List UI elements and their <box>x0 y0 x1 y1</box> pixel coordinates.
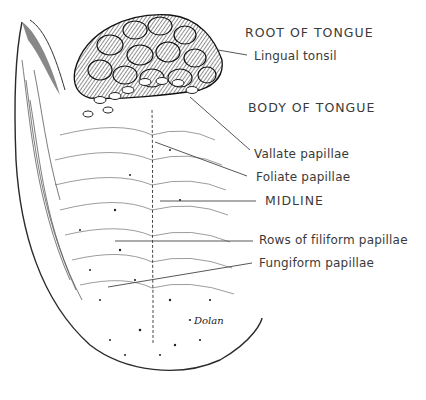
label-vallate-papillae: Vallate papillae <box>254 147 349 161</box>
label-foliate-papillae: Foliate papillae <box>256 170 350 184</box>
tongue-illustration: Dolan <box>0 0 426 400</box>
label-fungiform-papillae: Fungiform papillae <box>259 256 374 270</box>
label-midline: MIDLINE <box>265 193 324 208</box>
label-body-of-tongue: BODY OF TONGUE <box>248 100 375 115</box>
midline-groove <box>152 110 153 345</box>
artist-signature: Dolan <box>193 315 224 326</box>
label-lingual-tonsil: Lingual tonsil <box>254 49 337 63</box>
lingual-tonsil-mass <box>74 15 222 99</box>
tongue-diagram: Dolan ROOT OF TONGUE Lingual tonsil BODY… <box>0 0 426 400</box>
label-filiform-rows: Rows of filiform papillae <box>259 233 408 247</box>
label-root-of-tongue: ROOT OF TONGUE <box>245 25 374 40</box>
